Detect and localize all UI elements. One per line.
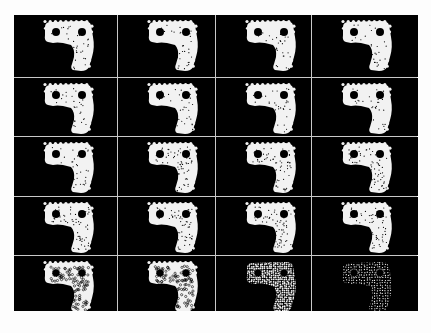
hole xyxy=(182,150,190,158)
hook-part-shape xyxy=(14,256,117,311)
image-cell xyxy=(14,15,117,77)
hole xyxy=(52,210,60,218)
image-cell xyxy=(312,197,418,255)
image-cell xyxy=(118,78,215,136)
hook-part-shape xyxy=(118,15,215,77)
hole xyxy=(156,210,164,218)
hole xyxy=(156,28,164,36)
hole xyxy=(254,91,262,99)
hook-part-shape xyxy=(216,137,311,196)
hole xyxy=(182,91,190,99)
hole xyxy=(254,269,262,277)
hole xyxy=(280,269,288,277)
hole xyxy=(350,150,358,158)
hole xyxy=(280,210,288,218)
image-cell xyxy=(216,78,311,136)
hook-part-shape xyxy=(312,15,418,77)
hole xyxy=(78,91,86,99)
hook-part-shape xyxy=(118,78,215,136)
image-cell xyxy=(216,256,311,311)
hole xyxy=(78,210,86,218)
hole xyxy=(78,269,86,277)
hole xyxy=(280,91,288,99)
image-cell xyxy=(216,15,311,77)
hole xyxy=(182,210,190,218)
hole xyxy=(280,28,288,36)
hole xyxy=(376,91,384,99)
image-cell xyxy=(118,137,215,196)
hole xyxy=(350,28,358,36)
hook-part-shape xyxy=(14,15,117,77)
image-cell xyxy=(216,137,311,196)
hole xyxy=(52,150,60,158)
hook-part-shape xyxy=(312,197,418,255)
hook-part-shape xyxy=(14,78,117,136)
hook-part-shape xyxy=(216,197,311,255)
hole xyxy=(376,210,384,218)
hole xyxy=(156,150,164,158)
hook-part-shape xyxy=(118,137,215,196)
hole xyxy=(182,28,190,36)
hole xyxy=(156,91,164,99)
image-cell xyxy=(14,197,117,255)
image-cell xyxy=(216,197,311,255)
hole xyxy=(350,269,358,277)
hole xyxy=(376,28,384,36)
hole xyxy=(376,269,384,277)
hook-part-shape xyxy=(312,256,418,311)
hook-part-shape xyxy=(118,197,215,255)
image-grid xyxy=(14,15,417,311)
hole xyxy=(376,150,384,158)
image-cell xyxy=(14,137,117,196)
hole xyxy=(254,150,262,158)
hook-part-shape xyxy=(312,78,418,136)
hole xyxy=(156,269,164,277)
image-cell xyxy=(14,256,117,311)
image-cell xyxy=(14,78,117,136)
hole xyxy=(52,91,60,99)
hole xyxy=(182,269,190,277)
image-cell xyxy=(118,197,215,255)
hook-part-shape xyxy=(216,78,311,136)
image-cell xyxy=(312,78,418,136)
image-cell xyxy=(312,256,418,311)
hole xyxy=(254,28,262,36)
hook-part-shape xyxy=(14,197,117,255)
hole xyxy=(350,210,358,218)
hook-part-shape xyxy=(312,137,418,196)
hook-part-shape xyxy=(216,256,311,311)
hole xyxy=(350,91,358,99)
image-cell xyxy=(118,256,215,311)
hole xyxy=(78,28,86,36)
image-cell xyxy=(312,15,418,77)
hook-part-shape xyxy=(118,256,215,311)
hole xyxy=(78,150,86,158)
hole xyxy=(52,269,60,277)
hole xyxy=(52,28,60,36)
hook-part-shape xyxy=(216,15,311,77)
image-cell xyxy=(312,137,418,196)
image-cell xyxy=(118,15,215,77)
hole xyxy=(280,150,288,158)
hole xyxy=(254,210,262,218)
hook-part-shape xyxy=(14,137,117,196)
